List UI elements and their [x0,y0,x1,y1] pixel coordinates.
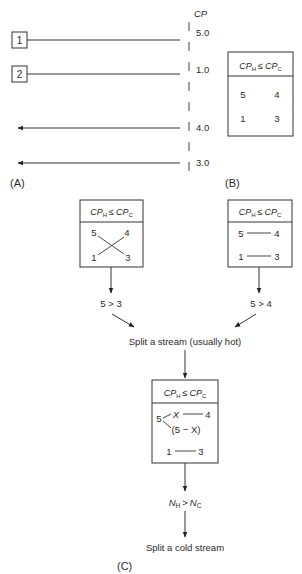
panel-c-label: (C) [117,560,132,572]
split-cold-step: Split a cold stream [146,542,224,553]
panel-a-label: (A) [10,177,25,189]
left-condition: 5 > 3 [100,298,121,309]
stream-2-id: 2 [17,69,23,80]
left-match-box: CPH≤CPC 5 4 1 3 [80,200,143,267]
right-box-cold-2: 3 [274,251,279,262]
split-box-header: CPH≤CPC [164,388,207,399]
split-source: 5 [156,413,161,424]
left-box-header: CPH≤CPC [90,207,133,218]
panel-b-label: (B) [225,177,240,189]
panel-a: 1 2 CP 5.0 1.0 4.0 3.0 (A) [10,8,209,189]
panel-b-header: CPH≤CPC [239,61,282,72]
diagram-canvas: 1 2 CP 5.0 1.0 4.0 3.0 (A) CPH≤CPC 5 4 1 [0,0,302,574]
hot-stream-2: 2 [12,66,180,82]
left-box-hot-1: 5 [91,227,96,238]
right-box-hot-1: 5 [238,228,243,239]
panel-b-cold-1: 4 [274,89,279,100]
left-box-cold-2: 3 [125,252,130,263]
split-remainder: (5 − X) [172,424,201,435]
split-hot-step: Split a stream (usually hot) [129,336,241,347]
split-match-cold: 4 [205,409,210,420]
cp-value-stream-4: 3.0 [196,157,209,168]
split-branch: X [172,409,180,420]
cp-value-stream-1: 5.0 [196,27,209,38]
split-box: CPH≤CPC 5 X 4 (5 − X) 1 3 [152,380,218,463]
right-condition: 5 > 4 [250,298,271,309]
cp-value-stream-2: 1.0 [196,64,209,75]
right-match-box: CPH≤CPC 5 4 1 3 [228,200,292,267]
cp-value-stream-3: 4.0 [196,122,209,133]
panel-b-hot-1: 5 [240,89,245,100]
right-box-cold-1: 4 [274,228,279,239]
panel-b-cold-2: 3 [274,113,279,124]
panel-b: CPH≤CPC 5 4 1 3 (B) [225,52,293,189]
right-box-header: CPH≤CPC [239,207,282,218]
right-box-hot-2: 1 [238,251,243,262]
left-box-cold-1: 4 [124,227,129,238]
left-box-hot-2: 1 [91,252,96,263]
left-merge-arrow [112,314,134,327]
cp-axis-label: CP [194,8,208,19]
final-condition: NH>NC [169,497,202,509]
panel-b-hot-2: 1 [240,113,245,124]
hot-stream-1: 1 [12,32,180,48]
panel-c: CPH≤CPC 5 4 1 3 5 > 3 CPH≤CPC 5 4 1 3 [80,200,292,572]
right-merge-arrow [235,314,256,327]
split-box-hot-2: 1 [166,446,171,457]
stream-1-id: 1 [17,35,23,46]
split-box-cold-2: 3 [198,446,203,457]
